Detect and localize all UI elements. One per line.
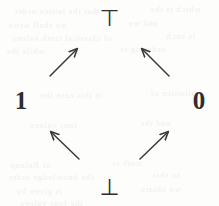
node-layer: ⊤ 1 0 ⊥ [0,0,219,206]
node-bottom: ⊥ [0,176,219,199]
lattice-diagram: that the lattice orderwhich is thewe sha… [0,0,219,206]
node-value-zero: 0 [182,88,216,113]
node-top: ⊤ [0,7,219,30]
node-value-one: 1 [4,88,38,113]
